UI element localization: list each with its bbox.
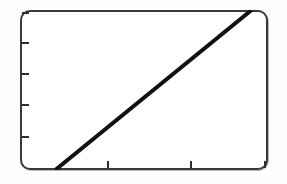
data-line-series [20, 10, 268, 170]
figure [0, 0, 287, 184]
data-line [55, 10, 251, 170]
plot-area [20, 10, 268, 170]
